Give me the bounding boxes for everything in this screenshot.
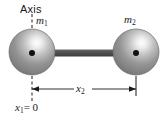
physics-diagram-canvas: Axis m1 m2 x2 x1= 0 (0, 0, 164, 121)
mass-m2-center-dot (133, 50, 139, 56)
mass-m1-subscript: 1 (44, 19, 48, 28)
mass-m1-symbol: m (36, 14, 44, 26)
origin-x1-value: = 0 (24, 101, 38, 113)
x2-arrow-left (32, 86, 39, 91)
connecting-rod (48, 50, 122, 57)
mass-m2-subscript: 2 (132, 18, 136, 27)
mass-m1-label: m1 (36, 15, 48, 26)
distance-x2-subscript: 2 (81, 87, 85, 96)
mass-m2-symbol: m (124, 13, 132, 25)
x2-arrow-right (129, 86, 136, 91)
distance-x2-label: x2 (76, 83, 85, 94)
origin-x1-label: x1= 0 (15, 102, 38, 113)
mass-m1-center-dot (29, 50, 35, 56)
mass-m2-label: m2 (124, 14, 136, 25)
origin-x1-subscript: 1 (20, 106, 24, 115)
